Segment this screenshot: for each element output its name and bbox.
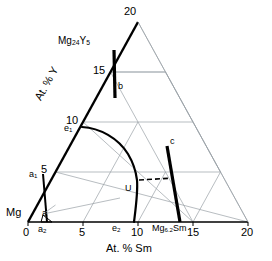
- ternary-phase-diagram: 20 Mg24Y5 15 10 5 At. % Y e1 a1 a a2 b c…: [0, 0, 272, 261]
- compound-line-c: [167, 146, 180, 222]
- tick-label-y15: 15: [93, 65, 105, 76]
- tick-label-x10: 10: [131, 227, 143, 238]
- point-label-e2: e2: [112, 224, 120, 233]
- diagram-canvas: [0, 0, 272, 261]
- e1-sub: 1: [69, 126, 72, 133]
- a2-sub: 2: [43, 227, 46, 234]
- point-label-a1: a1: [29, 170, 37, 179]
- corner-label-mg: Mg: [6, 207, 21, 218]
- e2-sub: 2: [117, 226, 120, 233]
- grid-lines: [56, 22, 249, 222]
- mg62sm-sub: 6.2: [165, 226, 174, 233]
- mg62sm-mg: Mg: [152, 223, 165, 233]
- tick-label-x20: 20: [241, 227, 253, 238]
- x-axis-title: At. % Sm: [106, 243, 152, 254]
- point-label-e1: e1: [64, 124, 72, 133]
- tick-label-x0: 0: [23, 227, 29, 238]
- compound-label-mg24y5: Mg24Y5: [58, 36, 90, 47]
- grid-mg15b: [138, 122, 166, 172]
- mg24y5-sub5: 5: [86, 39, 90, 46]
- tick-label-x15: 15: [187, 227, 199, 238]
- grid-sm15: [193, 172, 221, 222]
- point-label-c: c: [170, 137, 175, 146]
- point-label-b: b: [118, 82, 123, 91]
- mg24y5-mg: Mg: [58, 35, 72, 46]
- compound-line-b: [114, 50, 115, 98]
- tick-label-y5: 5: [41, 164, 47, 175]
- mg62sm-sm: Sm: [173, 223, 187, 233]
- tick-label-x5: 5: [79, 227, 85, 238]
- point-label-a2: a2: [38, 225, 46, 234]
- compound-label-mg62sm: Mg6.2Sm: [152, 224, 187, 233]
- point-label-U: U: [125, 184, 132, 193]
- liquidus-curve: [82, 127, 137, 222]
- point-label-a: a: [42, 209, 47, 218]
- a1-sub: 1: [34, 172, 37, 179]
- tick-label-apex-20: 20: [124, 6, 136, 17]
